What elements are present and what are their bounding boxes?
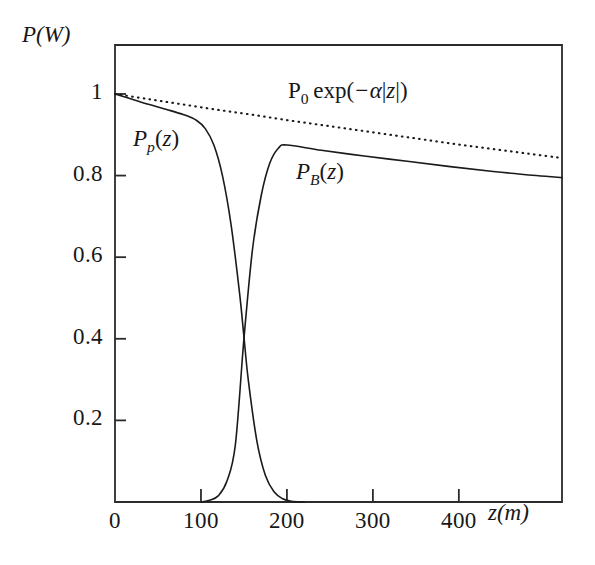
y-axis-title: P(W) [22,22,71,48]
x-tick-label: 0 [75,508,155,534]
x-tick-label: 200 [247,508,327,534]
power-vs-distance-chart: P(W) z(m) 0.20.40.60.81 0100200300400 P0… [0,0,595,565]
exponential-envelope-label: P0 exp(−α|z|) [288,78,408,108]
brillouin-curve-label: PB(z) [296,159,344,189]
x-tick-label: 300 [333,508,413,534]
y-tick-label: 0.2 [23,405,103,431]
x-axis-ticks [201,489,459,502]
data-series-group [115,94,562,502]
pump-curve-label: Pp(z) [133,126,179,156]
x-tick-label: 400 [419,508,499,534]
y-tick-label: 0.4 [23,324,103,350]
y-tick-label: 0.6 [23,242,103,268]
x-tick-label: 100 [161,508,241,534]
y-axis-ticks [115,94,126,420]
series-curve [201,145,562,502]
y-tick-label: 0.8 [23,161,103,187]
y-tick-label: 1 [23,79,103,105]
